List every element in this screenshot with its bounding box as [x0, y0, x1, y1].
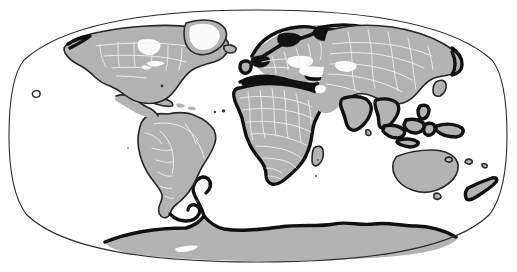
hawaii-island — [32, 91, 40, 98]
pacific-dot-1 — [317, 159, 319, 161]
world-map-canvas[interactable] — [0, 0, 517, 272]
bermuda-dot — [161, 85, 164, 88]
world-map-figure: World Map Robinson / oval world projecti… — [0, 0, 517, 272]
indian-ocean-dot — [315, 175, 317, 177]
pacific-dot-2 — [127, 147, 129, 149]
north-sea-black — [251, 56, 270, 67]
falkland-islands — [196, 200, 200, 203]
atlantic-island-dot — [214, 111, 216, 113]
